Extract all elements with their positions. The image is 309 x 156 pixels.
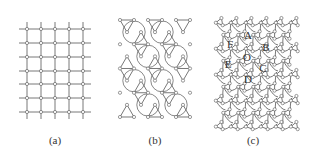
caption-c: (c) xyxy=(247,134,259,146)
cell-label-e: E xyxy=(225,58,232,70)
caption-a: (a) xyxy=(49,134,61,146)
cell-label-d: D xyxy=(244,73,252,85)
lattice-figure xyxy=(0,0,309,156)
cell-label-b: B xyxy=(262,41,269,53)
cell-label-c: C xyxy=(259,62,266,74)
caption-b: (b) xyxy=(149,134,162,146)
cell-label-a: A xyxy=(244,29,252,41)
cell-label-o: O xyxy=(243,51,251,63)
kagome-lattice xyxy=(118,18,191,118)
square-lattice xyxy=(19,22,91,119)
cell-label-f: F xyxy=(227,38,233,50)
twisted-kagome-lattice xyxy=(214,16,299,130)
